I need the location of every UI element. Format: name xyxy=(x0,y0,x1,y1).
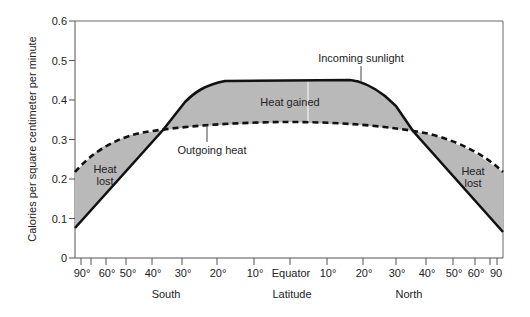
xtick-60s: 60° xyxy=(99,267,116,279)
xtick-30s: 30° xyxy=(175,267,192,279)
ytick-0.3: 0.3 xyxy=(52,134,67,146)
chart: 0 0.1 0.2 0.3 0.4 0.5 0.6 90° 60° 50° 40… xyxy=(0,0,530,317)
ytick-0.6: 0.6 xyxy=(52,15,67,27)
x-axis xyxy=(81,258,497,265)
y-axis: 0 0.1 0.2 0.3 0.4 0.5 0.6 xyxy=(52,15,75,264)
xtick-10s: 10° xyxy=(247,267,264,279)
xtick-40n: 40° xyxy=(419,267,436,279)
ytick-0: 0 xyxy=(61,252,67,264)
north-label: North xyxy=(396,288,423,300)
xtick-50s: 50° xyxy=(120,267,137,279)
heat-gained-label: Heat gained xyxy=(260,96,319,108)
ytick-0.4: 0.4 xyxy=(52,94,67,106)
xtick-40s: 40° xyxy=(145,267,162,279)
xtick-20s: 20° xyxy=(210,267,227,279)
xtick-50n: 50° xyxy=(446,267,463,279)
south-label: South xyxy=(152,288,181,300)
ytick-0.1: 0.1 xyxy=(52,213,67,225)
y-axis-title: Calories per square centimeter per minut… xyxy=(26,36,38,241)
ytick-0.5: 0.5 xyxy=(52,55,67,67)
xtick-60n: 60° xyxy=(468,267,485,279)
heat-lost-south-label-1: Heat xyxy=(93,163,116,175)
xtick-90s: 90° xyxy=(74,267,91,279)
outgoing-heat-label: Outgoing heat xyxy=(177,144,246,156)
heat-lost-south-label-2: lost xyxy=(96,175,113,187)
heat-lost-north-label-2: lost xyxy=(464,177,481,189)
x-tick-labels: 90° 60° 50° 40° 30° 20° 10° Equator 10° … xyxy=(74,267,502,279)
ytick-0.2: 0.2 xyxy=(52,173,67,185)
heat-lost-north-label-1: Heat xyxy=(461,165,484,177)
xtick-90n: 90 xyxy=(490,267,502,279)
xtick-20n: 20° xyxy=(356,267,373,279)
xtick-equator: Equator xyxy=(272,267,311,279)
latitude-label: Latitude xyxy=(272,288,311,300)
xtick-10n: 10° xyxy=(320,267,337,279)
incoming-sunlight-label: Incoming sunlight xyxy=(318,52,404,64)
xtick-30n: 30° xyxy=(389,267,406,279)
